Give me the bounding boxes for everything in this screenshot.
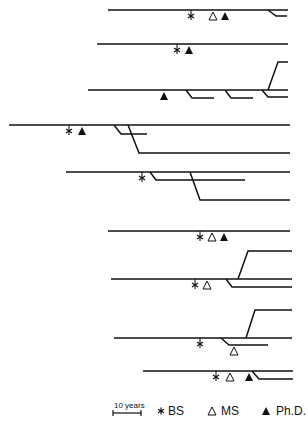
legend-label-ms: MS	[221, 404, 239, 418]
bs-asterisk-icon	[197, 338, 203, 348]
phd-filled-triangle-icon	[220, 233, 228, 241]
lineage-diagram: 10 years BS MS Ph.D.	[0, 0, 308, 423]
phd-filled-triangle-icon	[160, 92, 168, 100]
phd-filled-triangle-icon	[78, 127, 86, 135]
asterisk-icon	[158, 408, 164, 415]
bs-asterisk-icon	[174, 44, 180, 54]
branch-line	[225, 90, 253, 98]
ms-open-triangle-icon	[209, 12, 217, 20]
branch-line	[128, 125, 290, 153]
ms-open-triangle-icon	[203, 281, 211, 289]
branch-line	[262, 90, 288, 97]
ms-open-triangle-icon	[230, 347, 238, 355]
branch-line	[268, 10, 287, 16]
branch-line	[252, 371, 293, 379]
timeline-row	[9, 125, 290, 153]
ms-open-triangle-icon	[208, 233, 216, 241]
timeline-row	[66, 172, 290, 200]
branch-line	[150, 172, 245, 180]
legend-item-ms: MS	[208, 404, 239, 418]
scale-bar: 10 years	[113, 401, 145, 416]
legend-label-phd: Ph.D.	[276, 404, 306, 418]
timeline-row	[108, 10, 288, 20]
timeline-row	[88, 62, 288, 100]
phd-filled-triangle-icon	[185, 46, 193, 54]
branch-line	[268, 62, 288, 90]
legend: 10 years BS MS Ph.D.	[113, 401, 306, 418]
phd-filled-triangle-icon	[221, 12, 229, 20]
ms-open-triangle-icon	[226, 373, 234, 381]
branch-line	[226, 279, 292, 287]
timeline-row	[143, 371, 293, 381]
timeline-row	[97, 44, 288, 54]
legend-item-bs: BS	[158, 404, 184, 418]
legend-item-phd: Ph.D.	[262, 404, 306, 418]
bs-asterisk-icon	[66, 125, 72, 135]
bs-asterisk-icon	[192, 279, 198, 289]
legend-label-bs: BS	[168, 404, 184, 418]
timeline-rows	[9, 10, 293, 381]
bs-asterisk-icon	[213, 371, 219, 381]
open-triangle-icon	[208, 407, 216, 415]
timeline-row	[108, 231, 290, 241]
bs-asterisk-icon	[197, 231, 203, 241]
branch-line	[190, 172, 290, 200]
filled-triangle-icon	[262, 407, 270, 415]
branch-line	[186, 90, 214, 98]
phd-filled-triangle-icon	[245, 373, 253, 381]
bs-asterisk-icon	[139, 172, 145, 182]
branch-line	[221, 338, 268, 345]
timeline-row	[114, 310, 292, 355]
scale-bar-label: 10 years	[114, 401, 145, 410]
branch-line	[238, 251, 292, 279]
bs-asterisk-icon	[188, 10, 194, 20]
branch-line	[246, 310, 292, 338]
timeline-row	[111, 251, 292, 289]
